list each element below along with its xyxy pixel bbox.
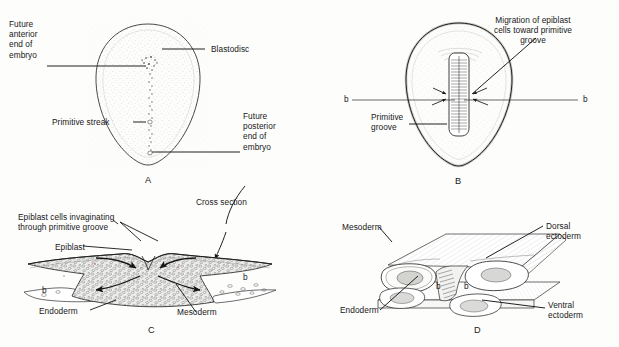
label-mesoderm-panel-c: Mesoderm [177, 307, 217, 317]
panel-c-artwork [20, 220, 282, 312]
section-marker-b-right-panel-c: b [243, 272, 248, 282]
panel-letter-b: B [455, 176, 462, 186]
embryology-figure: Future anterior end of embryo Blastodisc… [0, 0, 619, 347]
leader-epiblast [83, 246, 132, 250]
panel-letter-a: A [145, 175, 152, 185]
section-marker-b-left-panel-c: b [42, 285, 47, 295]
label-endoderm-panel-d: Endoderm [340, 305, 379, 315]
right-fold-tube [465, 261, 528, 291]
label-blastodisc: Blastodisc [211, 44, 249, 54]
label-future-anterior-end: Future anterior end of embryo [9, 19, 38, 60]
section-marker-b-left-panel-d: b [436, 281, 441, 291]
label-epiblast: Epiblast [55, 242, 85, 252]
leader-invaginating-1 [120, 222, 141, 241]
label-ventral-ectoderm: Ventral ectoderm [548, 300, 583, 320]
label-dorsal-ectoderm: Dorsal ectoderm [546, 221, 581, 241]
panel-letter-c: C [148, 325, 155, 335]
leader-invaginating-2 [120, 222, 158, 241]
panel-d-artwork [378, 226, 566, 316]
label-primitive-streak: Primitive streak [52, 117, 110, 127]
label-cross-section: Cross section [196, 197, 247, 207]
label-migration-of-epiblast-cells: Migration of epiblast cells toward primi… [470, 15, 596, 46]
label-primitive-groove: Primitive groove [371, 112, 403, 132]
label-endoderm-panel-c: Endoderm [39, 306, 78, 316]
label-mesoderm-panel-d: Mesoderm [342, 222, 382, 232]
section-marker-b-right-panel-d: b [464, 281, 469, 291]
section-marker-b-right-panel-b: b [583, 94, 588, 104]
primitive-groove [449, 53, 469, 136]
label-future-posterior-end: Future posterior end of embryo [243, 111, 276, 152]
label-epiblast-cells-invaginating: Epiblast cells invaginating through prim… [18, 212, 114, 232]
figure-artwork [0, 0, 619, 347]
panel-letter-d: D [474, 325, 481, 335]
panel-a-artwork [47, 18, 240, 170]
endoderm-right [213, 290, 276, 303]
section-marker-b-left-panel-b: b [344, 94, 349, 104]
